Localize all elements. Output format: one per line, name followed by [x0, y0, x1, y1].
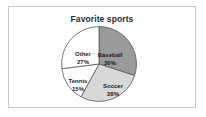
pie-label-soccer: Soccer 28%	[96, 83, 130, 98]
pie-label-baseball-name: Baseball	[98, 52, 123, 58]
pie-label-other-name: Other	[75, 51, 91, 57]
pie-label-tennis: Tennis 15%	[62, 78, 94, 93]
pie-label-tennis-name: Tennis	[69, 78, 88, 84]
pie-label-soccer-name: Soccer	[103, 83, 123, 89]
pie-label-other-value: 27%	[66, 59, 100, 67]
pie-label-other: Other 27%	[66, 51, 100, 66]
chart-title: Favorite sports	[9, 14, 195, 24]
chart-card: Favorite sports Baseball 30% Soccer 28% …	[8, 6, 196, 108]
pie-label-tennis-value: 15%	[62, 86, 94, 94]
pie-label-soccer-value: 28%	[96, 91, 130, 99]
